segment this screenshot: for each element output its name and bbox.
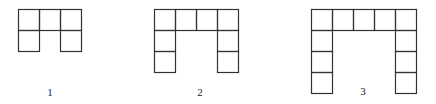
square-cell [218, 10, 239, 31]
square-cell [396, 10, 417, 31]
square-cell [19, 10, 40, 31]
square-cell [19, 31, 40, 52]
square-cell [155, 52, 176, 73]
square-cell [312, 52, 333, 73]
square-cell [218, 31, 239, 52]
figure-2 [155, 10, 239, 73]
square-cell [312, 31, 333, 52]
square-cell [396, 31, 417, 52]
square-cell [61, 10, 82, 31]
square-cell [333, 10, 354, 31]
figure-1 [19, 10, 82, 52]
square-cell [312, 10, 333, 31]
figure-label: 1 [47, 87, 53, 98]
square-cell [354, 10, 375, 31]
square-cell [197, 10, 218, 31]
square-cell [176, 10, 197, 31]
figure-label: 2 [197, 87, 203, 98]
square-cell [40, 10, 61, 31]
square-cell [218, 52, 239, 73]
square-cell [312, 73, 333, 94]
figure-label: 3 [360, 86, 366, 97]
figure-3 [312, 10, 417, 94]
square-cell [155, 31, 176, 52]
square-cell [375, 10, 396, 31]
square-cell [396, 73, 417, 94]
square-cell [396, 52, 417, 73]
square-cell [61, 31, 82, 52]
square-cell [155, 10, 176, 31]
square-pattern-diagram [0, 0, 436, 104]
